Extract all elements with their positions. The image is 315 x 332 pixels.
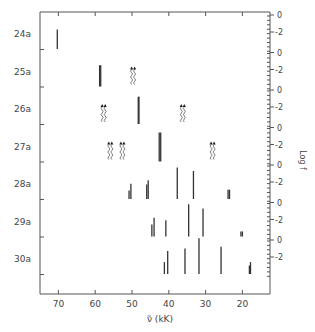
stick-spectrum-chart: 24a25a26a27a28a29a30a 0-20-20-20-20-20-2… <box>0 0 315 332</box>
log-f-tick-label: 0 <box>277 124 282 133</box>
x-tick-label: 70 <box>53 299 65 309</box>
forbidden-transition-markers <box>101 67 216 160</box>
row-label: 25a <box>14 67 31 77</box>
row-label: 29a <box>14 217 31 227</box>
log-f-axis: 0-20-20-20-20-20-20-2 <box>267 11 283 276</box>
wavy-shaft <box>131 70 133 85</box>
log-f-tick-label: 0 <box>277 236 282 245</box>
row-label: 27a <box>14 142 31 152</box>
y-axis-label: Log f <box>298 150 307 170</box>
wavy-shaft <box>111 145 113 160</box>
log-f-tick-label: -2 <box>275 66 283 75</box>
row-label: 26a <box>14 104 31 114</box>
x-tick-label: 20 <box>237 299 249 309</box>
wavy-shaft <box>101 107 103 122</box>
arrow-head-icon <box>122 142 125 145</box>
plot-border <box>40 12 270 294</box>
wavy-shaft <box>213 145 215 160</box>
x-tick-label: 60 <box>89 299 101 309</box>
wavy-shaft <box>180 107 182 122</box>
arrow-head-icon <box>130 67 133 70</box>
log-f-tick-label: -2 <box>275 103 283 112</box>
x-tick-label: 50 <box>126 299 138 309</box>
wavy-shaft <box>210 145 212 160</box>
wavenumber-axis: 706050403020 <box>53 12 249 309</box>
arrow-head-icon <box>104 104 107 107</box>
wavy-shaft <box>123 145 125 160</box>
log-f-tick-label: -2 <box>275 178 283 187</box>
plot-frame <box>40 12 270 294</box>
log-f-tick-label: -2 <box>275 141 283 150</box>
spectral-lines <box>57 29 250 274</box>
log-f-tick-label: 0 <box>277 11 282 20</box>
row-label: 28a <box>14 179 31 189</box>
arrow-head-icon <box>110 142 113 145</box>
log-f-tick-label: 0 <box>277 49 282 58</box>
arrow-head-icon <box>180 104 183 107</box>
log-f-tick-label: -2 <box>275 216 283 225</box>
x-axis-label: ν̃ (kK) <box>147 314 173 324</box>
row-label: 30a <box>14 254 31 264</box>
x-tick-label: 30 <box>200 299 212 309</box>
arrow-head-icon <box>209 142 212 145</box>
arrow-head-icon <box>119 142 122 145</box>
wavy-shaft <box>183 107 185 122</box>
wavy-shaft <box>104 107 106 122</box>
log-f-tick-label: 0 <box>277 86 282 95</box>
arrow-head-icon <box>183 104 186 107</box>
log-f-tick-label: -2 <box>275 253 283 262</box>
row-label: 24a <box>14 29 31 39</box>
arrow-head-icon <box>133 67 136 70</box>
arrow-head-icon <box>212 142 215 145</box>
wavy-shaft <box>120 145 122 160</box>
wavy-shaft <box>108 145 110 160</box>
log-f-tick-label: 0 <box>277 161 282 170</box>
wavy-shaft <box>134 70 136 85</box>
log-f-tick-label: -2 <box>275 28 283 37</box>
log-f-tick-label: 0 <box>277 199 282 208</box>
arrow-head-icon <box>101 104 104 107</box>
x-tick-label: 40 <box>163 299 175 309</box>
arrow-head-icon <box>107 142 110 145</box>
